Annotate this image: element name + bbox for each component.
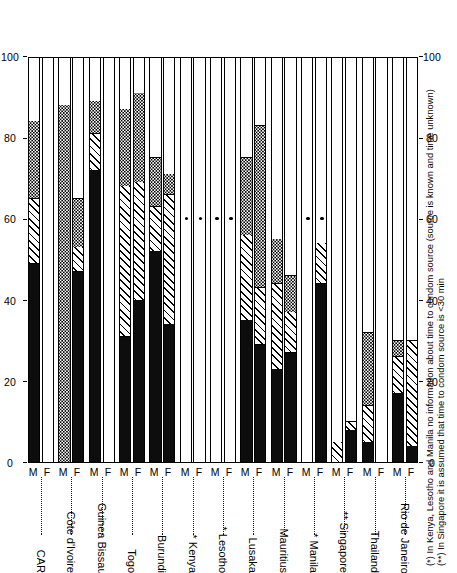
bar-m[interactable] bbox=[58, 57, 70, 463]
bar-f[interactable] bbox=[284, 57, 296, 463]
bar-segment-dots bbox=[90, 101, 100, 133]
subgroup-label-m: M bbox=[26, 466, 40, 478]
bar-segment-white bbox=[241, 57, 251, 158]
bar-segment-hatch bbox=[363, 405, 373, 442]
bar-segment-black bbox=[285, 352, 295, 462]
bar-f[interactable] bbox=[406, 57, 418, 463]
no-data-asterisk-marker bbox=[306, 217, 309, 220]
subgroup-label-f: F bbox=[343, 466, 357, 478]
no-data-asterisk-marker bbox=[320, 217, 323, 220]
bar-segment-white bbox=[332, 57, 342, 442]
bar-segment-hatch bbox=[29, 198, 39, 263]
category-label: Thailand bbox=[369, 503, 381, 573]
bar-segment-white bbox=[43, 57, 53, 462]
rotated-chart-canvas: 002020404060608080100100MFMFMFMFMFMFMFMF… bbox=[0, 0, 457, 573]
bar-segment-black bbox=[272, 369, 282, 462]
bar-segment-white bbox=[225, 57, 235, 462]
bar-segment-hatch bbox=[73, 247, 83, 271]
bar-segment-hatch bbox=[272, 283, 282, 368]
bar-segment-black bbox=[255, 344, 265, 462]
bar-m[interactable] bbox=[301, 57, 313, 463]
bar-m[interactable] bbox=[28, 57, 40, 463]
bar-f[interactable] bbox=[72, 57, 84, 463]
subgroup-label-f: F bbox=[101, 466, 115, 478]
category-label: ** Singapore bbox=[338, 503, 350, 573]
bar-segment-white bbox=[393, 57, 403, 340]
chart-page: 002020404060608080100100MFMFMFMFMFMFMFMF… bbox=[0, 0, 457, 573]
bar-m[interactable] bbox=[119, 57, 131, 463]
subgroup-label-m: M bbox=[360, 466, 374, 478]
bar-segment-white bbox=[285, 57, 295, 275]
bar-segment-white bbox=[59, 57, 69, 105]
bar-segment-white bbox=[346, 57, 356, 421]
bar-m[interactable] bbox=[89, 57, 101, 463]
bar-m[interactable] bbox=[240, 57, 252, 463]
bar-f[interactable] bbox=[133, 57, 145, 463]
bar-segment-white bbox=[363, 57, 373, 332]
category-label: Burundi bbox=[156, 503, 168, 573]
subgroup-label-m: M bbox=[87, 466, 101, 478]
bar-f[interactable] bbox=[193, 57, 205, 463]
category-label: * Kenya bbox=[187, 503, 199, 573]
bar-f[interactable] bbox=[254, 57, 266, 463]
bar-segment-hatch bbox=[241, 235, 251, 320]
axis-tick bbox=[23, 381, 27, 382]
bar-segment-hatch bbox=[332, 442, 342, 462]
bar-segment-black bbox=[407, 446, 417, 462]
bar-segment-dots bbox=[73, 198, 83, 247]
bar-segment-white bbox=[90, 57, 100, 101]
bar-segment-white bbox=[194, 57, 204, 462]
bar-segment-black bbox=[134, 300, 144, 462]
bar-f[interactable] bbox=[375, 57, 387, 463]
subgroup-label-m: M bbox=[147, 466, 161, 478]
bar-segment-dots bbox=[272, 239, 282, 284]
bar-m[interactable] bbox=[271, 57, 283, 463]
subgroup-label-f: F bbox=[161, 466, 175, 478]
bar-f[interactable] bbox=[103, 57, 115, 463]
category-label: CAR bbox=[35, 503, 47, 573]
bar-f[interactable] bbox=[345, 57, 357, 463]
bar-segment-black bbox=[346, 430, 356, 462]
subgroup-label-f: F bbox=[192, 466, 206, 478]
bar-segment-hatch bbox=[393, 356, 403, 393]
subgroup-label-f: F bbox=[313, 466, 327, 478]
bar-m[interactable] bbox=[149, 57, 161, 463]
bar-segment-dots bbox=[164, 174, 174, 194]
footnote-1: (*) In Kenya, Lesotho and Manila no info… bbox=[424, 89, 435, 566]
bar-m[interactable] bbox=[180, 57, 192, 463]
bar-segment-dots bbox=[59, 105, 69, 462]
bar-segment-white bbox=[407, 57, 417, 340]
bar-segment-dots bbox=[134, 93, 144, 182]
bar-segment-white bbox=[316, 57, 326, 243]
footnote-2: (**) In Singapore it is assumed that tim… bbox=[435, 278, 446, 566]
bar-segment-hatch bbox=[164, 194, 174, 324]
bar-segment-black bbox=[150, 251, 160, 462]
axis-tick bbox=[23, 463, 27, 464]
bar-segment-hatch bbox=[407, 340, 417, 446]
bar-segment-white bbox=[302, 57, 312, 462]
bar-segment-hatch bbox=[150, 206, 160, 251]
bar-m[interactable] bbox=[362, 57, 374, 463]
bar-segment-hatch bbox=[285, 312, 295, 353]
bar-f[interactable] bbox=[315, 57, 327, 463]
bar-segment-black bbox=[164, 324, 174, 462]
bar-segment-hatch bbox=[120, 186, 130, 336]
subgroup-label-m: M bbox=[208, 466, 222, 478]
bar-segment-dots bbox=[120, 109, 130, 186]
bar-segment-dots bbox=[393, 340, 403, 356]
axis-tick-label: 100 bbox=[0, 51, 23, 63]
subgroup-label-m: M bbox=[56, 466, 70, 478]
bar-segment-dots bbox=[29, 121, 39, 198]
bar-m[interactable] bbox=[210, 57, 222, 463]
bar-m[interactable] bbox=[331, 57, 343, 463]
bar-f[interactable] bbox=[224, 57, 236, 463]
bar-segment-black bbox=[29, 263, 39, 462]
bar-f[interactable] bbox=[163, 57, 175, 463]
bar-segment-black bbox=[73, 271, 83, 462]
bar-f[interactable] bbox=[42, 57, 54, 463]
bar-segment-black bbox=[120, 336, 130, 462]
subgroup-label-m: M bbox=[299, 466, 313, 478]
bar-segment-white bbox=[73, 57, 83, 198]
subgroup-label-m: M bbox=[238, 466, 252, 478]
bar-m[interactable] bbox=[392, 57, 404, 463]
